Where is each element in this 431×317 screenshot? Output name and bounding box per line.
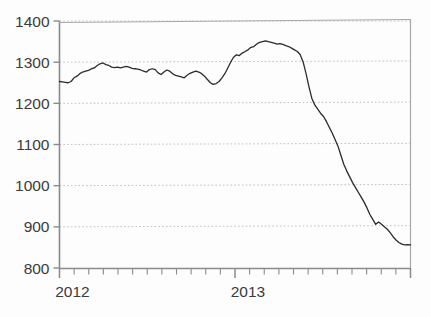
- x-tick-label-2012: 2012: [55, 283, 89, 300]
- gridline-1200: [60, 102, 411, 103]
- y-tick-label-1000: 1000: [15, 177, 50, 194]
- y-tick-label-1200: 1200: [15, 95, 50, 112]
- y-tick-label-1400: 1400: [15, 13, 50, 30]
- chart-container: 80090010001100120013001400 20122013: [0, 0, 431, 317]
- x-axis-ticks-group: [60, 268, 411, 278]
- gridline-900: [60, 226, 411, 227]
- x-tick-label-2013: 2013: [231, 283, 265, 300]
- gridline-1300: [60, 61, 411, 62]
- plot-frame-top: [59, 20, 411, 23]
- gridlines-group: [60, 21, 411, 227]
- data-series-group: [60, 41, 411, 245]
- gridline-1000: [60, 184, 411, 185]
- y-tick-label-800: 800: [24, 260, 50, 277]
- y-axis-ticks-group: [54, 21, 60, 268]
- y-axis-tick-labels-group: 80090010001100120013001400: [15, 13, 50, 277]
- y-tick-label-1100: 1100: [16, 136, 50, 153]
- y-tick-label-900: 900: [24, 218, 50, 235]
- line-chart: 80090010001100120013001400 20122013: [0, 0, 431, 317]
- x-axis-tick-labels-group: 20122013: [55, 283, 265, 300]
- price-line: [60, 41, 411, 245]
- gridline-1100: [60, 143, 411, 144]
- y-tick-label-1300: 1300: [15, 54, 50, 71]
